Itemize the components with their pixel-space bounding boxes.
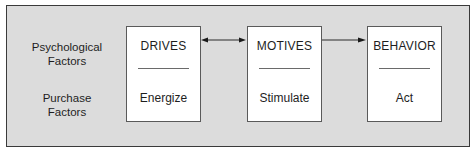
right-arrow-icon: [322, 38, 366, 43]
double-arrow-icon: [201, 38, 246, 43]
connector-arrows: [0, 0, 475, 156]
